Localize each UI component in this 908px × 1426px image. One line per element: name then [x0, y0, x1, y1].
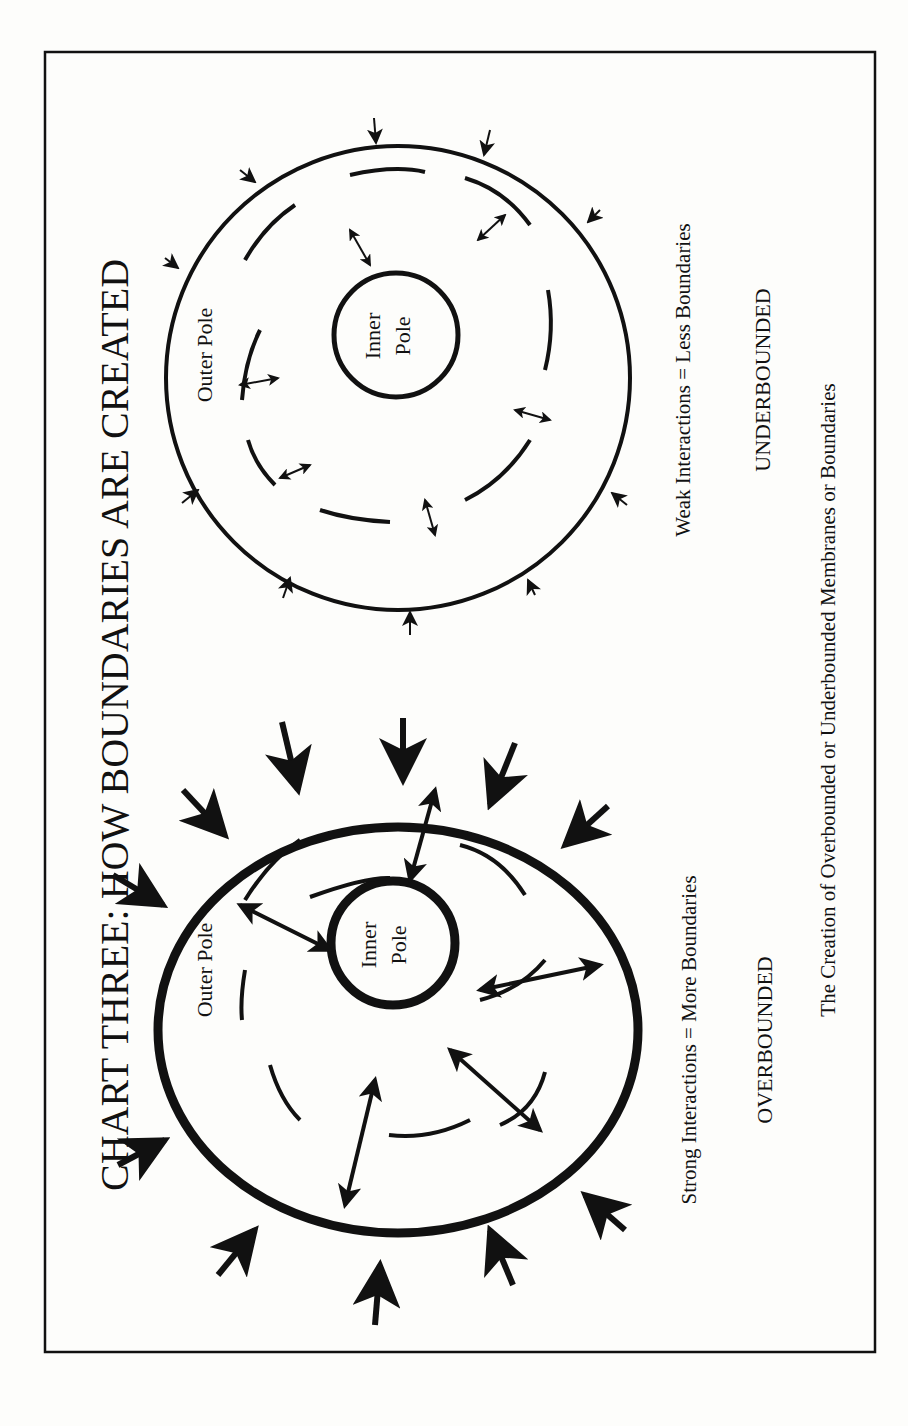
- external-pressure-arrows: [165, 118, 627, 635]
- outer-pole-label: Outer Pole: [192, 923, 217, 1018]
- overbounded-diagram: Outer Pole Inner Pole Strong Interaction…: [113, 718, 777, 1325]
- overbounded-label: OVERBOUNDED: [752, 956, 777, 1123]
- underbounded-label: UNDERBOUNDED: [750, 288, 775, 471]
- inner-pole-label-line2: Pole: [386, 925, 411, 964]
- outer-boundary-thick: [158, 827, 638, 1233]
- page-title: CHART THREE: HOW BOUNDARIES ARE CREATED: [92, 259, 137, 1191]
- underbounded-diagram: Outer Pole Inner Pole Weak Interactions …: [165, 118, 775, 635]
- underbounded-description: Weak Interactions = Less Boundaries: [671, 223, 695, 536]
- overbounded-description: Strong Interactions = More Boundaries: [677, 875, 701, 1204]
- figure-caption: The Creation of Overbounded or Underboun…: [816, 383, 840, 1016]
- inner-pole-label-line2: Pole: [390, 316, 415, 355]
- interaction-arrows: [240, 215, 550, 535]
- frame-border: [45, 52, 875, 1352]
- outer-pole-label: Outer Pole: [192, 308, 217, 403]
- inner-pole-label-line1: Inner: [356, 921, 381, 968]
- outer-boundary-thin: [166, 146, 630, 610]
- diagram-canvas: CHART THREE: HOW BOUNDARIES ARE CREATED: [0, 0, 908, 1426]
- inner-pole-label-line1: Inner: [360, 312, 385, 359]
